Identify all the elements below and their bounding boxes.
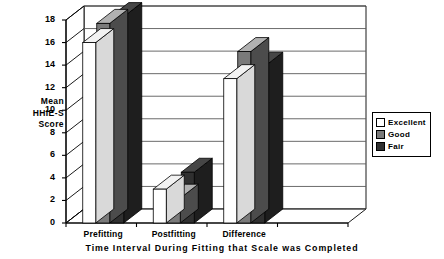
bar-prefitting-excellent [83,29,114,223]
bar-face [83,43,96,223]
legend-item-good: Good [376,129,426,140]
legend-item-fair: Fair [376,141,426,152]
x-axis-category-difference: Difference [222,229,266,239]
gray-swatch-icon [376,130,385,139]
chart-figure: Mean HHIE-S Score 024681012141618 Prefit… [0,0,444,259]
white-swatch-icon [376,118,385,127]
bar-face [224,79,237,223]
bar-side [237,65,255,223]
x-axis-category-postfitting: Postfitting [152,229,196,239]
dark-swatch-icon [376,142,385,151]
bar-difference-excellent [224,65,255,223]
x-axis-title: Time Interval During Fitting that Scale … [0,243,444,253]
x-axis-category-prefitting: Prefitting [84,229,123,239]
bar-face [153,189,166,223]
left-wall [66,6,84,223]
legend: Excellent Good Fair [372,112,431,157]
legend-label-fair: Fair [388,142,404,151]
legend-label-good: Good [388,130,410,139]
legend-item-excellent: Excellent [376,117,426,128]
legend-label-excellent: Excellent [388,118,426,127]
bar-side [96,29,114,223]
